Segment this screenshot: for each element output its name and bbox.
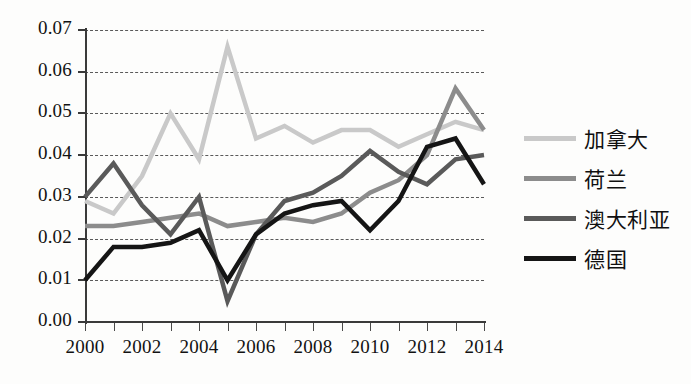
y-axis-tick-label: 0.06 — [10, 59, 72, 81]
legend-item-label: 加拿大 — [584, 123, 649, 153]
x-axis-tick-label: 2000 — [55, 336, 115, 358]
gridline — [85, 155, 484, 157]
x-axis-tick — [427, 322, 428, 331]
x-axis-tick-label: 2008 — [283, 336, 343, 358]
legend-line-swatch — [524, 176, 576, 181]
x-axis-tick — [285, 322, 286, 331]
x-axis-tick — [456, 322, 457, 331]
x-axis-tick-label: 2004 — [169, 336, 229, 358]
chart-legend: 加拿大荷兰澳大利亚德国 — [524, 118, 684, 278]
series-line — [85, 139, 484, 281]
legend-item-label: 德国 — [584, 243, 627, 273]
y-axis-line — [85, 28, 87, 324]
y-axis-tick-label: 0.04 — [10, 142, 72, 164]
gridline — [85, 197, 484, 199]
legend-item-label: 荷兰 — [584, 163, 627, 193]
x-axis-tick — [228, 322, 229, 331]
x-axis-tick — [342, 322, 343, 331]
legend-item-label: 澳大利亚 — [584, 203, 670, 233]
x-axis-tick — [399, 322, 400, 331]
legend-item[interactable]: 德国 — [524, 238, 684, 278]
legend-item[interactable]: 加拿大 — [524, 118, 684, 158]
gridline — [85, 280, 484, 282]
legend-item[interactable]: 荷兰 — [524, 158, 684, 198]
y-axis-tick-label: 0.02 — [10, 226, 72, 248]
gridline — [85, 30, 484, 32]
y-axis-tick-label: 0.07 — [10, 17, 72, 39]
x-axis-tick — [370, 322, 371, 331]
legend-line-swatch — [524, 216, 576, 221]
series-line — [85, 151, 484, 301]
x-axis-tick — [256, 322, 257, 331]
x-axis-tick — [171, 322, 172, 331]
y-axis-tick-label: 0.01 — [10, 267, 72, 289]
x-axis-tick — [199, 322, 200, 331]
gridline — [85, 72, 484, 74]
x-axis-tick — [484, 322, 485, 331]
x-axis-tick-label: 2006 — [226, 336, 286, 358]
x-axis-tick-label: 2002 — [112, 336, 172, 358]
line-chart: 0.000.010.020.030.040.050.060.07 2000200… — [0, 0, 691, 384]
x-axis-tick — [114, 322, 115, 331]
gridline — [85, 113, 484, 115]
legend-line-swatch — [524, 136, 576, 141]
x-axis-tick-label: 2010 — [340, 336, 400, 358]
y-axis-tick-label: 0.05 — [10, 100, 72, 122]
legend-line-swatch — [524, 256, 576, 261]
series-line — [85, 88, 484, 226]
legend-item[interactable]: 澳大利亚 — [524, 198, 684, 238]
x-axis-tick-label: 2014 — [454, 336, 514, 358]
y-axis-tick-label: 0.03 — [10, 184, 72, 206]
y-axis-labels: 0.000.010.020.030.040.050.060.07 — [0, 0, 72, 384]
x-axis-tick — [313, 322, 314, 331]
x-axis-tick-label: 2012 — [397, 336, 457, 358]
x-axis-tick — [142, 322, 143, 331]
gridline — [85, 239, 484, 241]
y-axis-tick-label: 0.00 — [10, 309, 72, 331]
x-axis-line — [84, 321, 486, 323]
